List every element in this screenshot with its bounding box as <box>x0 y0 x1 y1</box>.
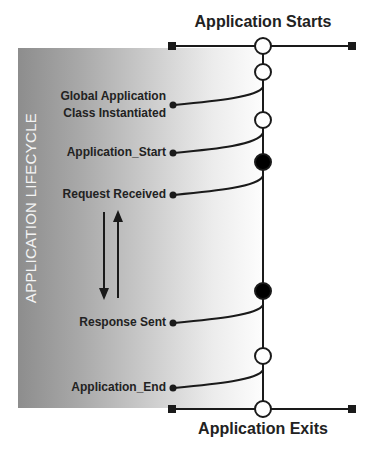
connector-response-sent <box>173 305 263 323</box>
up-arrowhead-icon <box>113 210 123 222</box>
bar-endpoint-icon <box>168 42 176 50</box>
filled-node-icon <box>255 154 271 170</box>
bar-endpoint-icon <box>348 42 356 50</box>
open-node-icon <box>255 112 271 128</box>
bar-endpoint-icon <box>168 405 176 413</box>
request-loop-arrows <box>99 210 123 300</box>
event-dot-icon <box>170 320 177 327</box>
connector-global-application <box>173 87 263 105</box>
event-dots <box>170 102 177 392</box>
bar-endpoint-icon <box>348 405 356 413</box>
filled-node-icon <box>255 283 271 299</box>
open-node-icon <box>255 64 271 80</box>
event-connectors <box>173 87 263 388</box>
event-dot-icon <box>170 385 177 392</box>
diagram-graphics <box>0 0 377 457</box>
application-lifecycle-diagram: APPLICATION LIFECYCLE Application Starts… <box>0 0 377 457</box>
event-dot-icon <box>170 192 177 199</box>
open-node-icon <box>255 38 271 54</box>
open-node-icon <box>255 401 271 417</box>
open-node-icon <box>255 348 271 364</box>
down-arrowhead-icon <box>99 288 109 300</box>
event-dot-icon <box>170 150 177 157</box>
connector-application-start <box>173 133 263 153</box>
event-dot-icon <box>170 102 177 109</box>
connector-request-received <box>173 176 263 195</box>
connector-application-end <box>173 370 263 388</box>
